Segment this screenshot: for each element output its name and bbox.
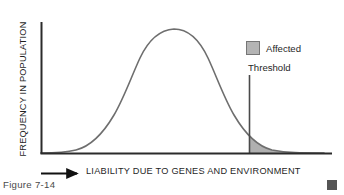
figure-caption: Figure 7-14 [3,179,55,190]
figure-7-14: FREQUENCY IN POPULATION LIABILITY DUE TO… [0,0,344,195]
legend: Affected [246,41,301,55]
x-axis-label: LIABILITY DUE TO GENES AND ENVIRONMENT [86,166,301,176]
corner-marker [327,180,337,190]
y-axis-label: FREQUENCY IN POPULATION [18,19,28,159]
legend-swatch-affected [246,41,260,55]
legend-label-affected: Affected [266,43,301,54]
threshold-label: Threshold [248,62,291,73]
